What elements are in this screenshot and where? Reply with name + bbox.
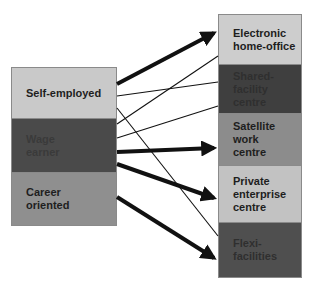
arrow-self-employed-to-electronic-home-office [117, 33, 214, 84]
connections [0, 0, 312, 289]
link-self-employed-to-shared-facility-centre [117, 82, 218, 96]
link-self-employed-to-flexi-facilities [117, 108, 218, 236]
link-wage-earner-to-electronic-home-office [117, 56, 218, 124]
link-wage-earner-to-shared-facility-centre [117, 106, 218, 138]
arrow-wage-earner-to-satellite-work-centre [117, 148, 214, 152]
arrow-career-oriented-to-flexi-facilities [117, 197, 214, 258]
